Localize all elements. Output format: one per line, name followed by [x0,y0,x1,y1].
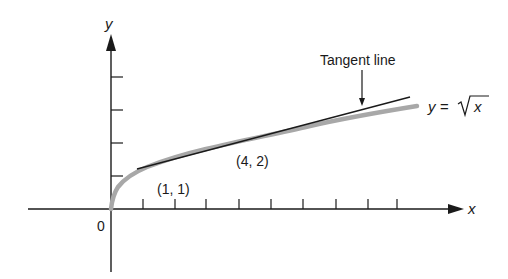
curve-label: y = x [427,96,489,115]
tangent-pointer [359,70,365,106]
tangent-line [137,97,410,169]
x-axis-label: x [467,200,476,217]
y-ticks [111,77,123,176]
point-label-1-1: (1, 1) [157,181,190,197]
x-axis [28,204,464,214]
origin-label: 0 [97,218,105,234]
tangent-line-label: Tangent line [320,52,396,68]
y-axis-arrow-icon [106,34,116,51]
x-ticks [143,199,397,209]
x-axis-arrow-icon [448,204,464,214]
curve-label-radicand: x [473,98,482,115]
pointer-arrow-icon [359,98,365,106]
curve-label-lhs: y = [427,98,449,115]
y-axis [106,34,116,272]
y-axis-label: y [104,15,114,32]
point-label-4-2: (4, 2) [236,153,269,169]
sqrt-tangent-diagram: y x 0 (1, 1) (4, 2) Tangent line y = x [0,0,508,279]
